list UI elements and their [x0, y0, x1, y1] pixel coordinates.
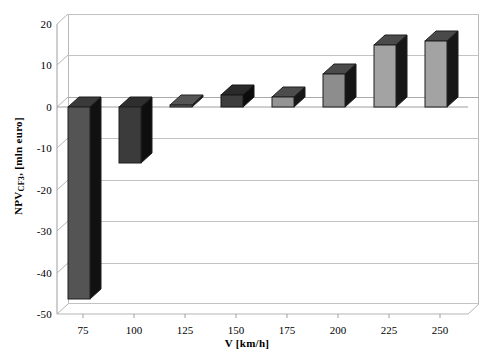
- y-tick-label: 10: [18, 60, 52, 71]
- x-tick-label: 175: [264, 325, 310, 336]
- x-axis-title: V [km/h]: [0, 337, 494, 349]
- y-axis-title: NPVCF3, [mln euro]: [12, 86, 24, 246]
- x-tick-label: 200: [315, 325, 361, 336]
- axis-frame: [0, 0, 494, 361]
- y-axis-title-subscript: CF3: [17, 176, 26, 192]
- chart-container: 20 10 0 -10 -20 -30 -40 -50 75 100 125 1…: [0, 0, 494, 361]
- x-tick-label: 125: [162, 325, 208, 336]
- x-tick-label: 100: [111, 325, 157, 336]
- x-tick-label: 75: [60, 325, 106, 336]
- x-tick-label: 225: [366, 325, 412, 336]
- x-tick-label: 250: [417, 325, 463, 336]
- y-tick-label: -40: [18, 268, 52, 279]
- y-axis-title-main: NPV: [12, 191, 24, 215]
- y-tick-label: 20: [18, 19, 52, 30]
- x-tick-label: 150: [213, 325, 259, 336]
- y-tick-label: -50: [18, 309, 52, 320]
- y-axis-title-units: , [mln euro]: [12, 117, 24, 176]
